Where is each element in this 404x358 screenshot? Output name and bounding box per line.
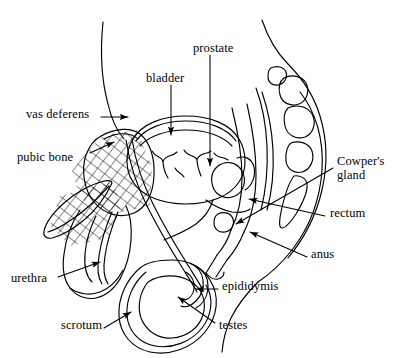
label-epididymis: epididymis xyxy=(222,280,279,293)
sacral-canal xyxy=(256,88,267,210)
rectum xyxy=(217,104,256,260)
cowpers-gland xyxy=(214,213,234,233)
epididymis xyxy=(181,263,208,308)
label-bladder: bladder xyxy=(146,72,184,85)
label-cowpers-gland: Cowper's gland xyxy=(337,154,401,182)
prostate xyxy=(212,157,255,198)
label-testes: testes xyxy=(219,319,247,332)
anus xyxy=(206,255,227,279)
label-anus: anus xyxy=(311,248,334,261)
anatomical-diagram: prostate bladder vas deferens pubic bone… xyxy=(0,0,404,358)
leader-scrotum xyxy=(104,312,131,328)
prostatic-urethra xyxy=(164,200,213,240)
label-vas-deferens: vas deferens xyxy=(26,108,89,121)
leader-urethra xyxy=(58,262,100,277)
label-pubic-bone: pubic bone xyxy=(17,151,73,164)
label-rectum: rectum xyxy=(330,207,365,220)
abdominal-wall-outline xyxy=(102,22,124,139)
label-scrotum: scrotum xyxy=(61,319,102,332)
label-prostate: prostate xyxy=(193,42,233,55)
label-urethra: urethra xyxy=(11,272,47,285)
leader-rectum xyxy=(249,199,325,216)
vertebral-column xyxy=(268,67,314,228)
